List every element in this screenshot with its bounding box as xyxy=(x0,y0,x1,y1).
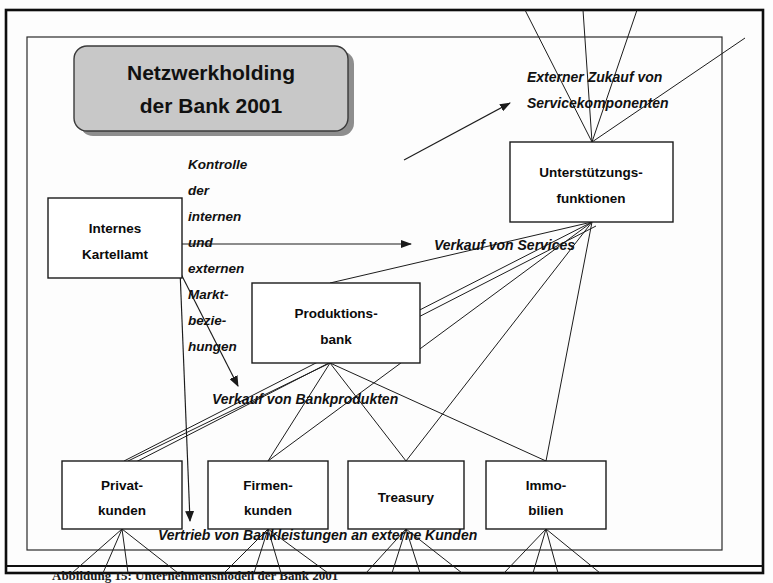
node-produktionsbank[interactable]: Produktions- bank xyxy=(252,283,420,363)
title-line-2: der Bank 2001 xyxy=(140,94,283,117)
node-label-immobilien-line-2: bilien xyxy=(528,503,563,518)
diagram-page: Netzwerkholding der Bank 2001 Internes K… xyxy=(0,0,773,583)
node-rect-internes-kartellamt[interactable] xyxy=(48,198,182,278)
edge-produktionsbank-to-privatkunden xyxy=(128,363,330,461)
title-box-rect xyxy=(74,46,348,131)
node-rect-privatkunden[interactable] xyxy=(62,461,182,529)
flow-label-externer-zukauf-line-2: Servicekomponenten xyxy=(527,95,669,111)
node-label-privatkunden-line-1: Privat- xyxy=(101,478,143,493)
side-label-line-2: der xyxy=(188,183,210,198)
title-line-1: Netzwerkholding xyxy=(127,61,295,84)
flow-label-externer-zukauf-line-1: Externer Zukauf von xyxy=(527,69,662,85)
flow-label-externer-zukauf: Externer Zukauf von Servicekomponenten xyxy=(527,69,669,111)
node-rect-produktionsbank[interactable] xyxy=(252,283,420,363)
node-label-unterstuetzungsfunktionen-line-2: funktionen xyxy=(557,191,626,206)
flow-label-verkauf-von-services: Verkauf von Services xyxy=(434,237,575,253)
node-label-internes-kartellamt-line-2: Kartellamt xyxy=(82,247,149,262)
node-immobilien[interactable]: Immo- bilien xyxy=(486,461,606,529)
node-rect-firmenkunden[interactable] xyxy=(208,461,328,529)
flow-label-verkauf-von-bankprodukten: Verkauf von Bankprodukten xyxy=(212,391,398,407)
node-firmenkunden[interactable]: Firmen- kunden xyxy=(208,461,328,529)
node-unterstuetzungsfunktionen[interactable]: Unterstützungs- funktionen xyxy=(510,142,673,222)
side-label-line-3: internen xyxy=(188,209,241,224)
figure-caption: Abbildung 15: Unternehmensmodell der Ban… xyxy=(52,568,338,583)
node-rect-unterstuetzungsfunktionen[interactable] xyxy=(510,142,673,222)
side-label-line-8: hungen xyxy=(188,339,237,354)
side-label-line-5: externen xyxy=(188,261,244,276)
side-label-line-6: Markt- xyxy=(188,287,229,302)
node-label-immobilien-line-1: Immo- xyxy=(526,478,567,493)
side-label-line-4: und xyxy=(188,235,213,250)
edge-support-to-treasury xyxy=(406,222,592,461)
node-rect-immobilien[interactable] xyxy=(486,461,606,529)
node-internes-kartellamt[interactable]: Internes Kartellamt xyxy=(48,198,182,278)
node-label-firmenkunden-line-2: kunden xyxy=(244,503,292,518)
node-label-treasury-line-1: Treasury xyxy=(378,490,435,505)
node-privatkunden[interactable]: Privat- kunden xyxy=(62,461,182,529)
node-label-unterstuetzungsfunktionen-line-1: Unterstützungs- xyxy=(539,165,643,180)
edge-externer-zukauf-arrow xyxy=(404,103,510,160)
node-treasury[interactable]: Treasury xyxy=(348,461,464,529)
title-box: Netzwerkholding der Bank 2001 xyxy=(74,46,354,136)
side-label-kontrolle: Kontrolle der internen und externen Mark… xyxy=(188,157,248,354)
node-label-produktionsbank-line-2: bank xyxy=(320,332,352,347)
organization-diagram: Netzwerkholding der Bank 2001 Internes K… xyxy=(0,0,773,583)
side-label-line-1: Kontrolle xyxy=(188,157,248,172)
edge-produktionsbank-to-treasury xyxy=(330,363,406,461)
edge-support-to-immobilien xyxy=(546,222,592,461)
node-label-internes-kartellamt-line-1: Internes xyxy=(89,221,142,236)
edge-produktionsbank-to-immobilien xyxy=(330,363,546,461)
node-label-privatkunden-line-2: kunden xyxy=(98,503,146,518)
flow-label-vertrieb-von-bankleistungen: Vertrieb von Bankleistungen an externe K… xyxy=(158,527,477,543)
node-label-firmenkunden-line-1: Firmen- xyxy=(243,478,293,493)
side-label-line-7: bezie- xyxy=(188,313,227,328)
node-label-produktionsbank-line-1: Produktions- xyxy=(294,306,377,321)
